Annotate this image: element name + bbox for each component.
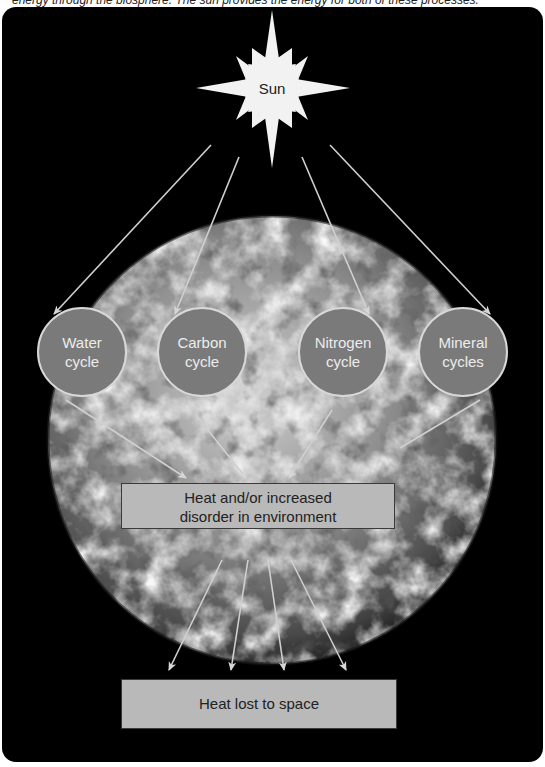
heat-disorder-line1: Heat and/or increased <box>122 488 394 507</box>
sun-label: Sun <box>247 80 297 97</box>
nitrogen-cycle-label-line2: cycle <box>299 352 387 371</box>
heat-disorder-box: Heat and/or increased disorder in enviro… <box>121 483 395 529</box>
mineral-cycles-label-line1: Mineral <box>419 333 507 352</box>
water-cycle-label-line2: cycle <box>38 352 126 371</box>
carbon-cycle-label-line2: cycle <box>158 352 246 371</box>
water-cycle-label: Water cycle <box>38 333 126 371</box>
carbon-cycle-label-line1: Carbon <box>158 333 246 352</box>
water-cycle-label-line1: Water <box>38 333 126 352</box>
carbon-cycle-label: Carbon cycle <box>158 333 246 371</box>
mineral-cycles-label: Mineral cycles <box>419 333 507 371</box>
nitrogen-cycle-label: Nitrogen cycle <box>299 333 387 371</box>
heat-lost-to-space-box: Heat lost to space <box>121 679 397 729</box>
heat-disorder-line2: disorder in environment <box>122 507 394 526</box>
mineral-cycles-label-line2: cycles <box>419 352 507 371</box>
diagram-canvas <box>0 0 545 767</box>
nitrogen-cycle-label-line1: Nitrogen <box>299 333 387 352</box>
earth-image <box>48 216 496 664</box>
